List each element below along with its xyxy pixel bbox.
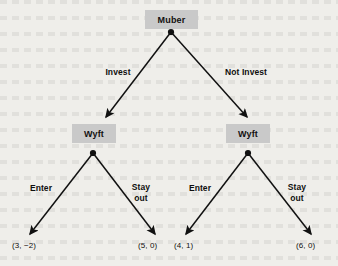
edge-label-enter-left: Enter	[22, 183, 60, 194]
edge-label-stay-out-right: Stay out	[280, 182, 314, 203]
edge-label-stay-out-left: Stay out	[124, 182, 158, 203]
node-wyft-left: Wyft	[72, 124, 116, 143]
edge-label-invest: Invest	[98, 67, 138, 78]
node-muber-label: Muber	[158, 15, 186, 25]
payoff-node-3: (4, 1)	[174, 241, 193, 250]
node-wyft-left-label: Wyft	[84, 129, 104, 139]
payoff-node-2: (5, 0)	[138, 241, 157, 250]
payoff-node-1: (3, −2)	[12, 241, 36, 250]
edge-enter-left	[30, 153, 93, 234]
edge-enter-right	[186, 153, 248, 234]
edge-label-enter-right: Enter	[181, 183, 219, 194]
node-muber: Muber	[145, 10, 198, 29]
tree-edges	[0, 0, 338, 266]
edge-label-not-invest: Not Invest	[217, 67, 275, 78]
payoff-node-4: (6, 0)	[296, 241, 315, 250]
game-tree-diagram: Muber Wyft Wyft Invest Not Invest Enter …	[0, 0, 338, 266]
node-wyft-right: Wyft	[226, 124, 270, 143]
node-wyft-right-label: Wyft	[238, 129, 258, 139]
